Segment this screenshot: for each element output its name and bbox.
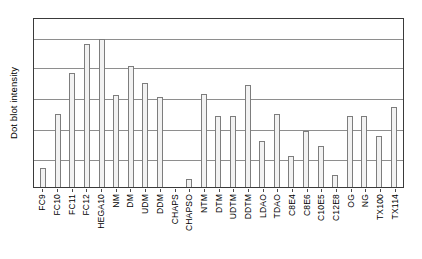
bar [186, 179, 192, 188]
x-tick-label: C8E6 [302, 194, 312, 216]
x-tick-slot: UDTM [226, 189, 241, 257]
bar-slot [80, 19, 95, 187]
x-tick-label: FC11 [67, 194, 77, 215]
x-tick-label: UDM [140, 194, 150, 214]
x-tick-slot: NG [358, 189, 373, 257]
bar [347, 116, 353, 187]
y-axis-label-container: Dot blot intensity [2, 18, 24, 188]
x-tick-slot: TX114 [388, 189, 403, 257]
bar-slot [65, 19, 80, 187]
x-tick-slot: FC10 [50, 189, 65, 257]
x-tick-label: CHAPSO [184, 194, 194, 231]
bar [230, 116, 236, 187]
x-tick-label: NG [360, 194, 370, 207]
bar-slot [357, 19, 372, 187]
x-tick-mark [145, 189, 146, 192]
x-tick-mark [86, 189, 87, 192]
x-tick-slot: NTM [197, 189, 212, 257]
x-tick-mark [263, 189, 264, 192]
x-tick-label: DM [125, 194, 135, 208]
x-tick-slot: TDAO [270, 189, 285, 257]
bar-slot [240, 19, 255, 187]
bar-slot [51, 19, 66, 187]
bar [55, 114, 61, 187]
x-tick-mark [160, 189, 161, 192]
x-tick-label: DDTM [243, 194, 253, 219]
bar [288, 156, 294, 187]
bar-slot [36, 19, 51, 187]
bar [142, 83, 148, 187]
x-tick-label: NM [111, 194, 121, 208]
x-tick-label: FC9 [37, 194, 47, 211]
bar-slot [372, 19, 387, 187]
x-tick-mark [219, 189, 220, 192]
x-tick-slot: NM [108, 189, 123, 257]
x-tick-mark [277, 189, 278, 192]
x-tick-label: DDM [155, 194, 165, 214]
x-tick-label: C10E5 [316, 194, 326, 221]
bar [201, 94, 207, 188]
x-tick-mark [233, 189, 234, 192]
x-tick-label: TDAO [272, 194, 282, 218]
x-tick-mark [72, 189, 73, 192]
bar [157, 97, 163, 187]
bar [215, 116, 221, 187]
bar [259, 141, 265, 187]
x-tick-mark [204, 189, 205, 192]
x-tick-slot: C8E4 [285, 189, 300, 257]
x-tick-label: C12E8 [331, 194, 341, 221]
x-tick-mark [57, 189, 58, 192]
x-tick-label: C8E4 [287, 194, 297, 216]
y-axis-label: Dot blot intensity [8, 67, 19, 139]
x-tick-slot: HEGA10 [94, 189, 109, 257]
x-tick-mark [365, 189, 366, 192]
x-tick-slot: DM [123, 189, 138, 257]
x-tick-slot: C8E6 [299, 189, 314, 257]
x-tick-label: UDTM [228, 194, 238, 219]
x-tick-mark [395, 189, 396, 192]
x-tick-label: LDAO [258, 194, 268, 218]
x-tick-mark [321, 189, 322, 192]
x-tick-slot: UDM [138, 189, 153, 257]
bar-slot [124, 19, 139, 187]
x-tick-mark [189, 189, 190, 192]
x-tick-label: CHAPS [170, 194, 180, 224]
bar-chart-figure: Dot blot intensity FC9FC10FC11FC12HEGA10… [0, 0, 422, 259]
x-tick-label: HEGA10 [96, 194, 106, 229]
x-tick-label: TX100 [375, 194, 385, 220]
bar [303, 131, 309, 187]
bar-slot [109, 19, 124, 187]
bar-slot [328, 19, 343, 187]
bar [69, 73, 75, 187]
bar [274, 114, 280, 187]
x-axis-tick-labels: FC9FC10FC11FC12HEGA10NMDMUDMDDMCHAPSCHAP… [33, 189, 404, 257]
x-tick-slot: LDAO [255, 189, 270, 257]
bar [376, 136, 382, 187]
bar-slot [284, 19, 299, 187]
x-tick-label: OG [346, 194, 356, 208]
x-tick-slot: DTM [211, 189, 226, 257]
x-tick-label: NTM [199, 194, 209, 213]
bar-slot [386, 19, 401, 187]
x-tick-slot: CHAPS [167, 189, 182, 257]
bar-slot [167, 19, 182, 187]
bar-slot [342, 19, 357, 187]
x-tick-label: DTM [214, 194, 224, 213]
bar [245, 85, 251, 187]
x-tick-slot: DDM [153, 189, 168, 257]
bar-slot [313, 19, 328, 187]
bar [40, 168, 46, 187]
bar [84, 44, 90, 187]
x-tick-slot: C12E8 [329, 189, 344, 257]
x-tick-mark [130, 189, 131, 192]
bar [391, 107, 397, 187]
bar-slot [138, 19, 153, 187]
x-tick-slot: OG [343, 189, 358, 257]
x-tick-label: FC10 [52, 194, 62, 216]
x-tick-slot: CHAPSO [182, 189, 197, 257]
bar-slot [197, 19, 212, 187]
bar-slot [255, 19, 270, 187]
bar-series [34, 19, 403, 187]
x-tick-mark [116, 189, 117, 192]
x-tick-mark [336, 189, 337, 192]
